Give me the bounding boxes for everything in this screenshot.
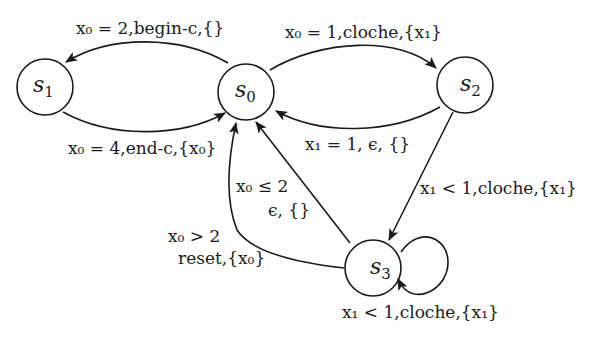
edge-label-s3-s0-le2-guard: x₀ ≤ 2 — [236, 178, 288, 195]
edge-s0-s1 — [66, 42, 228, 63]
edge-label-s3-s0-gt2-guard: x₀ > 2 — [168, 228, 220, 245]
edge-s3-s3 — [398, 237, 448, 294]
edge-label-s2-s3: x₁ < 1,cloche,{x₁} — [420, 180, 577, 197]
edge-label-s3-s0-le2-action: ϵ, {} — [268, 202, 310, 219]
diagram-graphics — [0, 0, 616, 353]
edge-s1-s0 — [63, 112, 225, 132]
edge-label-s0-s2: x₀ = 1,cloche,{x₁} — [285, 24, 442, 41]
edge-s0-s2 — [270, 45, 436, 70]
node-label-s3: s3 — [370, 256, 391, 282]
edge-s2-s3 — [389, 112, 453, 240]
node-label-s2: s2 — [460, 73, 481, 99]
edge-label-s1-s0: x₀ = 4,end-c,{x₀} — [68, 140, 216, 157]
node-label-s0: s0 — [235, 79, 256, 105]
edge-label-s2-s0: x₁ = 1, ϵ, {} — [305, 136, 410, 153]
edge-label-s3-self-loop: x₁ < 1,cloche,{x₁} — [342, 304, 499, 321]
node-label-s1: s1 — [33, 74, 54, 100]
automaton-diagram: s1 s0 s2 s3 x₀ = 2,begin-c,{} x₀ = 4,end… — [0, 0, 616, 353]
edge-s2-s0 — [276, 107, 440, 129]
edge-label-s0-s1: x₀ = 2,begin-c,{} — [76, 20, 224, 37]
edge-label-s3-s0-gt2-action: reset,{x₀} — [178, 250, 265, 267]
